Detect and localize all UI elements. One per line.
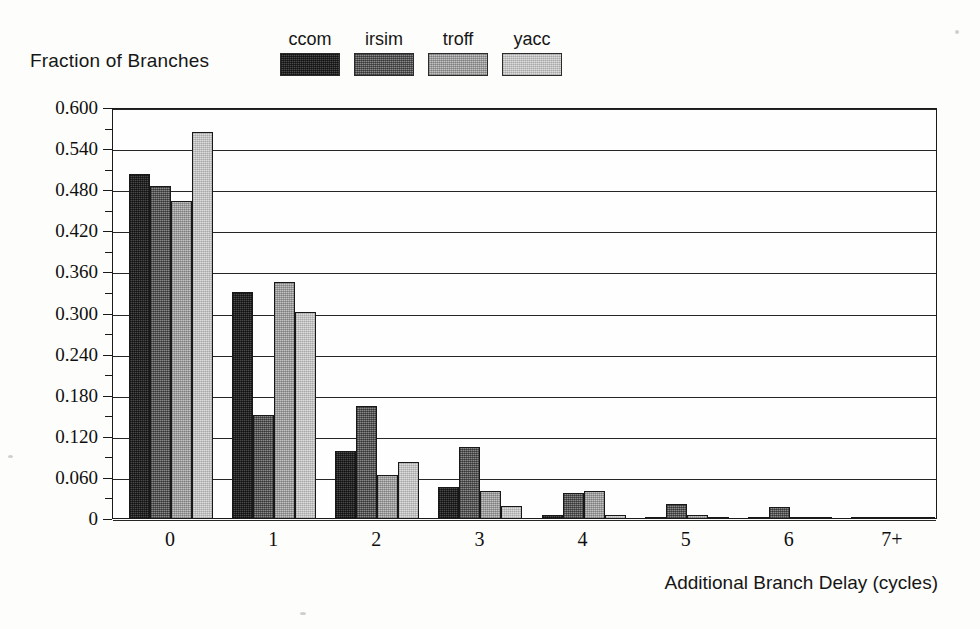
scan-speck bbox=[8, 455, 13, 458]
bar-irsim-4 bbox=[563, 493, 584, 518]
x-axis-label: 0 bbox=[165, 528, 175, 551]
y-axis-label: 0.180 bbox=[55, 385, 98, 407]
y-axis-label: 0.540 bbox=[55, 138, 98, 160]
y-axis-minor-tick bbox=[105, 457, 112, 458]
bar-group-5 bbox=[645, 109, 729, 518]
y-axis-tick bbox=[103, 231, 112, 232]
bar-ccom-5 bbox=[645, 517, 666, 518]
y-axis-label: 0.480 bbox=[55, 179, 98, 201]
bar-troff-1 bbox=[274, 282, 295, 518]
bar-ccom-1 bbox=[232, 292, 253, 518]
x-axis-label: 7+ bbox=[881, 528, 902, 551]
bar-group-2 bbox=[335, 109, 419, 518]
y-axis-title: Fraction of Branches bbox=[30, 50, 209, 72]
bar-group-7plus bbox=[851, 109, 935, 518]
legend-swatch-irsim bbox=[354, 53, 414, 76]
y-axis-tick bbox=[103, 272, 112, 273]
legend-item-irsim: irsim bbox=[354, 30, 414, 76]
x-axis-label: 5 bbox=[681, 528, 691, 551]
bar-troff-4 bbox=[584, 491, 605, 518]
bar-group-0 bbox=[129, 109, 213, 518]
bar-irsim-7plus bbox=[872, 517, 893, 518]
legend-item-troff: troff bbox=[428, 30, 488, 76]
y-axis-label: 0.600 bbox=[55, 97, 98, 119]
bar-troff-3 bbox=[480, 491, 501, 518]
bar-irsim-2 bbox=[356, 406, 377, 518]
bar-yacc-4 bbox=[605, 515, 626, 518]
x-axis-label: 4 bbox=[578, 528, 588, 551]
bar-ccom-0 bbox=[129, 174, 150, 518]
bar-group-3 bbox=[438, 109, 522, 518]
legend-item-yacc: yacc bbox=[502, 30, 562, 76]
bar-yacc-3 bbox=[501, 506, 522, 518]
y-axis-label: 0.240 bbox=[55, 344, 98, 366]
legend-swatch-yacc bbox=[502, 53, 562, 76]
legend-swatch-ccom bbox=[280, 53, 340, 76]
y-axis-minor-tick bbox=[105, 293, 112, 294]
y-axis-tick bbox=[103, 396, 112, 397]
x-axis-label: 1 bbox=[268, 528, 278, 551]
plot-area bbox=[112, 108, 937, 519]
legend-label: ccom bbox=[288, 30, 331, 48]
y-axis-tick bbox=[103, 437, 112, 438]
scan-speck bbox=[955, 30, 959, 34]
legend-item-ccom: ccom bbox=[280, 30, 340, 76]
y-axis-minor-tick bbox=[105, 498, 112, 499]
y-axis-label: 0.300 bbox=[55, 303, 98, 325]
y-axis: 0.6000.5400.4800.4200.3600.3000.2400.180… bbox=[0, 108, 112, 519]
bar-yacc-2 bbox=[398, 462, 419, 518]
y-axis-label: 0 bbox=[89, 508, 99, 530]
bar-yacc-5 bbox=[708, 517, 729, 518]
y-axis-minor-tick bbox=[105, 334, 112, 335]
y-axis-minor-tick bbox=[105, 211, 112, 212]
bar-group-1 bbox=[232, 109, 316, 518]
x-axis-title: Additional Branch Delay (cycles) bbox=[664, 572, 938, 594]
y-axis-tick bbox=[103, 478, 112, 479]
y-axis-label: 0.060 bbox=[55, 467, 98, 489]
x-axis-label: 6 bbox=[784, 528, 794, 551]
y-axis-minor-tick bbox=[105, 252, 112, 253]
x-axis-label: 2 bbox=[371, 528, 381, 551]
y-axis-tick bbox=[103, 519, 112, 520]
y-axis-minor-tick bbox=[105, 416, 112, 417]
y-axis-label: 0.120 bbox=[55, 426, 98, 448]
bar-yacc-7plus bbox=[914, 517, 935, 518]
y-axis-minor-tick bbox=[105, 375, 112, 376]
chart-legend: ccomirsimtroffyacc bbox=[280, 30, 562, 76]
bar-group-6 bbox=[748, 109, 832, 518]
y-axis-tick bbox=[103, 355, 112, 356]
bar-yacc-0 bbox=[192, 132, 213, 518]
bar-irsim-0 bbox=[150, 186, 171, 518]
bar-ccom-7plus bbox=[851, 517, 872, 518]
scan-speck bbox=[300, 612, 306, 615]
y-axis-tick bbox=[103, 149, 112, 150]
legend-label: yacc bbox=[513, 30, 550, 48]
bar-irsim-3 bbox=[459, 447, 480, 518]
bar-ccom-6 bbox=[748, 517, 769, 518]
y-axis-minor-tick bbox=[105, 170, 112, 171]
bar-ccom-2 bbox=[335, 451, 356, 518]
x-axis-label: 3 bbox=[474, 528, 484, 551]
bar-ccom-4 bbox=[542, 515, 563, 518]
y-axis-tick bbox=[103, 190, 112, 191]
legend-label: troff bbox=[443, 30, 474, 48]
bar-yacc-6 bbox=[811, 517, 832, 518]
bar-troff-2 bbox=[377, 475, 398, 518]
y-axis-label: 0.420 bbox=[55, 220, 98, 242]
chart-canvas: Fraction of Branches ccomirsimtroffyacc … bbox=[0, 0, 980, 629]
bar-ccom-3 bbox=[438, 487, 459, 519]
bar-troff-6 bbox=[790, 517, 811, 518]
bar-group-4 bbox=[542, 109, 626, 518]
y-axis-tick bbox=[103, 108, 112, 109]
y-axis-label: 0.360 bbox=[55, 261, 98, 283]
bar-irsim-6 bbox=[769, 507, 790, 518]
bar-troff-7plus bbox=[893, 517, 914, 518]
y-axis-tick bbox=[103, 314, 112, 315]
bar-irsim-1 bbox=[253, 415, 274, 518]
legend-swatch-troff bbox=[428, 53, 488, 76]
bar-yacc-1 bbox=[295, 312, 316, 518]
gridline bbox=[113, 520, 936, 521]
bar-troff-5 bbox=[687, 515, 708, 518]
bar-troff-0 bbox=[171, 201, 192, 518]
legend-label: irsim bbox=[365, 30, 403, 48]
